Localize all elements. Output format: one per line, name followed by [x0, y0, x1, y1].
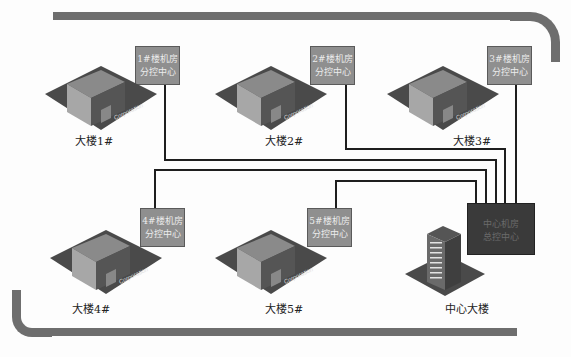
wire-b4-horizontal [154, 169, 487, 171]
building-icon-b1: Corporation [45, 58, 160, 138]
wire-b5-vertical [335, 180, 337, 210]
wire-b4-drop [485, 169, 487, 204]
building-icon-b2: Corporation [215, 58, 330, 138]
building-label-b4: 大楼4# [72, 300, 110, 316]
wire-b1-drop [495, 159, 497, 204]
building-label-b5: 大楼5# [265, 300, 303, 316]
bottom-bus-bar-curve [12, 290, 52, 337]
building-icon-b3: Corporation [387, 58, 502, 138]
wire-b5-horizontal [335, 180, 477, 182]
wire-b4-vertical [154, 169, 156, 209]
wire-b1-horizontal [164, 159, 497, 161]
bottom-bus-bar [50, 328, 517, 336]
wire-b2-drop [504, 148, 506, 204]
building-icon-b4: Corporation [50, 222, 165, 302]
wire-b1-vertical [164, 78, 166, 160]
building-label-b3: 大楼3# [453, 132, 491, 148]
top-bus-bar [53, 12, 528, 20]
network-diagram: 1#楼机房 分控中心 2#楼机房 分控中心 3#楼机房 分控中心 4#楼机房 分… [0, 0, 571, 357]
building-label-b2: 大楼2# [265, 132, 303, 148]
wire-b5-drop [475, 180, 477, 204]
wire-b3-vertical [515, 84, 517, 204]
wire-b2-horizontal [345, 148, 506, 150]
wire-b2-vertical [345, 84, 347, 150]
building-icon-b5: Corporation [215, 222, 330, 302]
center-building-label: 中心大楼 [445, 300, 489, 316]
building-label-b1: 大楼1# [75, 132, 113, 148]
